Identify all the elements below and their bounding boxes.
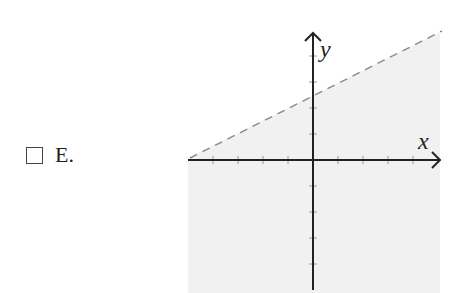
x-axis-label: x bbox=[417, 128, 429, 154]
y-axis-label: y bbox=[318, 36, 331, 62]
inequality-graph: y x bbox=[0, 0, 459, 293]
